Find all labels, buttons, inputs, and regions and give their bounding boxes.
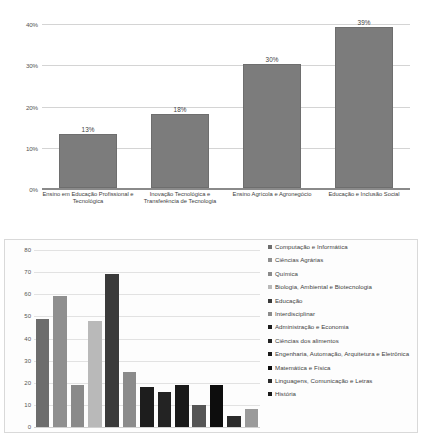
bar	[192, 405, 206, 427]
bar	[88, 321, 102, 427]
legend-swatch-icon	[268, 392, 272, 396]
legend-label: Linguagens, Comunicação e Letras	[275, 377, 372, 384]
bar	[158, 392, 172, 427]
legend-item[interactable]: Matemática e Física	[268, 364, 416, 371]
bar: 13%	[59, 134, 117, 188]
legend-label: Ciências Agrárias	[275, 256, 323, 263]
gridline	[34, 316, 260, 317]
legend-label: Educação	[275, 297, 303, 304]
legend-item[interactable]: História	[268, 390, 416, 397]
legend-item[interactable]: Linguagens, Comunicação e Letras	[268, 377, 416, 384]
legend-swatch-icon	[268, 272, 272, 276]
bar	[123, 372, 137, 427]
legend-item[interactable]: Biologia, Ambiental e Biotecnologia	[268, 283, 416, 290]
legend-item[interactable]: Engenharia, Automação, Arquitetura e Ele…	[268, 350, 416, 357]
gridline	[34, 250, 260, 251]
y-axis-tick-label: 10	[24, 402, 31, 408]
legend-swatch-icon	[268, 379, 272, 383]
bar: 18%	[151, 114, 209, 188]
bar	[53, 296, 67, 427]
legend-label: Matemática e Física	[275, 364, 330, 371]
legend-label: Engenharia, Automação, Arquitetura e Ele…	[275, 350, 409, 357]
bottom-chart-plot-area: 80706050403020100	[34, 250, 260, 427]
legend-swatch-icon	[268, 352, 272, 356]
legend-item[interactable]: Ciências Agrárias	[268, 256, 416, 263]
x-axis-category-label: Inovação Tecnológica e Transferência de …	[134, 191, 226, 205]
y-axis-tick-label: 0	[28, 424, 31, 430]
legend-swatch-icon	[268, 285, 272, 289]
bar	[175, 385, 189, 427]
legend-label: História	[275, 390, 296, 397]
gridline	[34, 427, 260, 428]
bar	[140, 387, 154, 427]
gridline	[42, 189, 410, 190]
y-axis-tick-label: 10%	[26, 144, 38, 151]
bar-data-label: 30%	[266, 56, 279, 63]
bar-data-label: 18%	[174, 106, 187, 113]
category-bar-chart: 80706050403020100 Computação e Informáti…	[4, 239, 418, 433]
legend-item[interactable]: Educação	[268, 297, 416, 304]
legend-item[interactable]: Administração e Economia	[268, 323, 416, 330]
legend-item[interactable]: Computação e Informática	[268, 243, 416, 250]
x-axis-category-label: Ensino Agrícola e Agronegócio	[226, 191, 318, 198]
y-axis-tick-label: 80	[24, 247, 31, 253]
y-axis-tick-label: 0%	[29, 186, 38, 193]
y-axis-tick-label: 50	[24, 313, 31, 319]
bar: 39%	[335, 27, 393, 188]
legend-label: Química	[275, 270, 298, 277]
gridline	[34, 339, 260, 340]
legend-swatch-icon	[268, 339, 272, 343]
legend-item[interactable]: Química	[268, 270, 416, 277]
bar	[210, 385, 224, 427]
y-axis-tick-label: 40%	[26, 21, 38, 28]
y-axis-tick-label: 30	[24, 358, 31, 364]
legend-label: Administração e Economia	[275, 323, 349, 330]
legend-swatch-icon	[268, 312, 272, 316]
legend-swatch-icon	[268, 325, 272, 329]
bottom-chart-legend: Computação e InformáticaCiências Agrária…	[268, 243, 416, 404]
percentage-bar-chart: 40%30%20%10%0% 13%18%30%39% Ensino em Ed…	[0, 0, 422, 222]
bar-data-label: 13%	[82, 126, 95, 133]
y-axis-tick-label: 70	[24, 269, 31, 275]
legend-label: Interdisciplinar	[275, 310, 315, 317]
bar-data-label: 39%	[358, 19, 371, 26]
legend-item[interactable]: Ciências dos alimentos	[268, 337, 416, 344]
legend-item[interactable]: Interdisciplinar	[268, 310, 416, 317]
gridline	[42, 24, 410, 25]
y-axis-tick-label: 40	[24, 336, 31, 342]
y-axis-tick-label: 30%	[26, 62, 38, 69]
legend-swatch-icon	[268, 245, 272, 249]
bar	[105, 274, 119, 427]
bar	[227, 416, 241, 427]
gridline	[34, 383, 260, 384]
x-axis-category-label: Educação e Inclusão Social	[318, 191, 410, 198]
y-axis-tick-label: 20%	[26, 103, 38, 110]
bar	[245, 409, 259, 427]
x-axis-category-label: Ensino em Educação Profissional e Tecnol…	[42, 191, 134, 205]
gridline	[34, 294, 260, 295]
bar	[36, 319, 50, 427]
legend-swatch-icon	[268, 366, 272, 370]
y-axis-tick-label: 20	[24, 380, 31, 386]
legend-swatch-icon	[268, 299, 272, 303]
top-chart-plot-area: 40%30%20%10%0% 13%18%30%39%	[42, 24, 410, 189]
legend-label: Computação e Informática	[275, 243, 348, 250]
bar	[71, 385, 85, 427]
legend-swatch-icon	[268, 258, 272, 262]
gridline	[34, 272, 260, 273]
bar: 30%	[243, 64, 301, 188]
legend-label: Biologia, Ambiental e Biotecnologia	[275, 283, 372, 290]
legend-label: Ciências dos alimentos	[275, 337, 339, 344]
gridline	[34, 361, 260, 362]
y-axis-tick-label: 60	[24, 291, 31, 297]
